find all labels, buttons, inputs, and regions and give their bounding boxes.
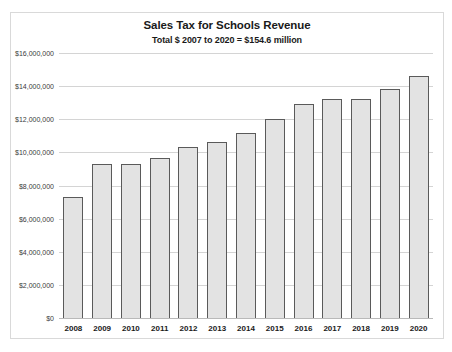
bar[interactable]: [265, 119, 285, 318]
x-axis-tick-label: 2010: [122, 324, 140, 333]
chart-frame: Sales Tax for Schools Revenue Total $ 20…: [10, 12, 444, 339]
bar-group[interactable]: 2015: [260, 53, 289, 318]
x-axis-tick-label: 2011: [151, 324, 168, 333]
bar-group[interactable]: 2014: [232, 53, 261, 318]
bar-group[interactable]: 2008: [59, 53, 88, 318]
x-axis-tick-label: 2013: [208, 324, 226, 333]
bar-group[interactable]: 2019: [375, 53, 404, 318]
bar-group[interactable]: 2016: [289, 53, 318, 318]
x-axis-tick-label: 2019: [381, 324, 399, 333]
bar-group[interactable]: 2011: [145, 53, 174, 318]
y-axis-tick-label: $2,000,000: [19, 281, 54, 288]
x-axis-tick-label: 2020: [410, 324, 428, 333]
x-axis-tick-label: 2009: [93, 324, 111, 333]
bar[interactable]: [92, 164, 112, 318]
bar[interactable]: [409, 76, 429, 318]
y-axis-tick-label: $16,000,000: [15, 50, 54, 57]
bar-group[interactable]: 2013: [203, 53, 232, 318]
chart-title: Sales Tax for Schools Revenue: [11, 19, 443, 31]
x-axis-tick-label: 2016: [295, 324, 313, 333]
bar[interactable]: [351, 99, 371, 318]
y-axis-tick-label: $8,000,000: [19, 182, 54, 189]
bar[interactable]: [322, 99, 342, 318]
bar-series: 2008200920102011201220132014201520162017…: [59, 53, 433, 318]
bar-group[interactable]: 2012: [174, 53, 203, 318]
chart-subtitle: Total $ 2007 to 2020 = $154.6 million: [11, 35, 443, 45]
bar[interactable]: [63, 197, 83, 318]
bar-group[interactable]: 2010: [117, 53, 146, 318]
bar-group[interactable]: 2020: [404, 53, 433, 318]
y-axis-tick-label: $0: [46, 315, 54, 322]
bar[interactable]: [178, 147, 198, 318]
bar[interactable]: [380, 89, 400, 318]
bar[interactable]: [150, 158, 170, 318]
y-axis-tick-label: $4,000,000: [19, 248, 54, 255]
bar[interactable]: [294, 104, 314, 318]
y-axis-tick-label: $10,000,000: [15, 149, 54, 156]
x-axis-tick-label: 2014: [237, 324, 255, 333]
x-axis-tick-label: 2015: [266, 324, 284, 333]
bar-group[interactable]: 2017: [318, 53, 347, 318]
y-axis-tick-label: $6,000,000: [19, 215, 54, 222]
bar[interactable]: [207, 142, 227, 318]
bar-group[interactable]: 2018: [347, 53, 376, 318]
x-axis-tick-label: 2008: [64, 324, 82, 333]
x-axis-tick-label: 2017: [323, 324, 341, 333]
bar[interactable]: [236, 133, 256, 319]
gridline: [59, 318, 433, 319]
plot-area: $0$2,000,000$4,000,000$6,000,000$8,000,0…: [59, 53, 433, 318]
bar-group[interactable]: 2009: [88, 53, 117, 318]
x-axis-tick-label: 2012: [180, 324, 198, 333]
y-axis-tick-label: $14,000,000: [15, 83, 54, 90]
y-axis-tick-label: $12,000,000: [15, 116, 54, 123]
x-axis-tick-label: 2018: [352, 324, 370, 333]
bar[interactable]: [121, 164, 141, 318]
